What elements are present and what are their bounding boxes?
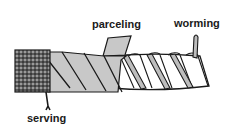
label-parceling: parceling [92, 19, 141, 30]
label-serving: serving [27, 113, 66, 124]
serving-coil [15, 50, 50, 110]
serving-tail [46, 92, 50, 110]
parceling-wrap [48, 52, 126, 92]
parceling-flap [103, 36, 131, 56]
label-worming: worming [174, 18, 220, 29]
rope-diagram: parceling worming serving [0, 0, 229, 136]
